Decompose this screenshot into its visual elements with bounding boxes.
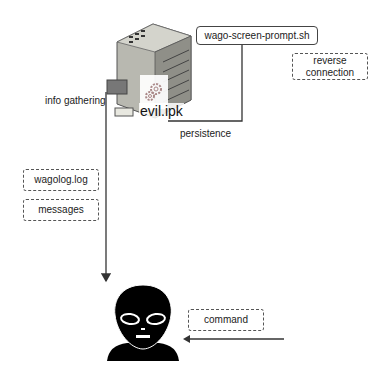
reverse-connection-label: reverse connection bbox=[292, 53, 368, 80]
command-label: command bbox=[188, 309, 264, 331]
persistence-label: persistence bbox=[180, 128, 231, 139]
artifact-wagolog: wagolog.log bbox=[23, 169, 99, 191]
gears-icon bbox=[143, 81, 165, 103]
info-gathering-label: info gathering bbox=[45, 95, 106, 106]
artifact-messages: messages bbox=[23, 199, 99, 221]
package-label: evil.ipk bbox=[139, 103, 184, 119]
script-node: wago-screen-prompt.sh bbox=[196, 26, 318, 45]
attacker-node bbox=[105, 283, 181, 363]
alien-icon bbox=[105, 283, 181, 363]
